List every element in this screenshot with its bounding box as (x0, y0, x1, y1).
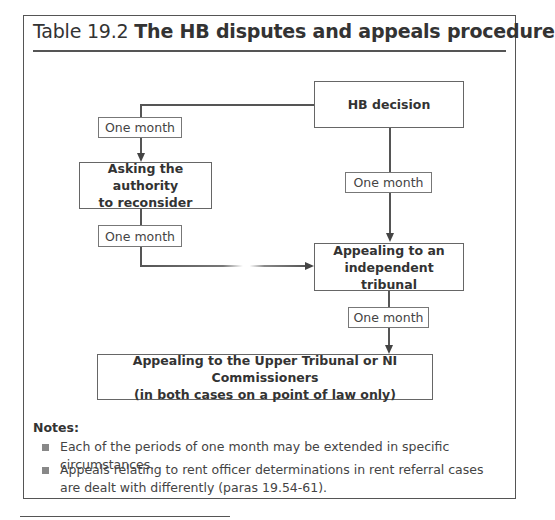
period-label: One month (105, 120, 175, 135)
connector-decision-left (140, 104, 314, 106)
bullet-icon (42, 444, 49, 451)
node-label-line2: independent tribunal (315, 259, 463, 293)
period-label: One month (354, 175, 424, 190)
footnote-divider (20, 516, 230, 517)
bullet-icon (42, 467, 49, 474)
node-ask-reconsider: Asking the authorityto reconsider (79, 162, 212, 209)
table-number: Table 19.2 (33, 20, 134, 42)
period-label: One month (105, 229, 175, 244)
node-hb-decision: HB decision (314, 81, 464, 128)
node-upper-tribunal: Appealing to the Upper Tribunal or NI Co… (97, 354, 433, 400)
node-label-line2: (in both cases on a point of law only) (98, 386, 432, 403)
notes-heading: Notes: (33, 420, 79, 435)
table-caption: The HB disputes and appeals procedure (134, 20, 554, 42)
note-item: Appeals relating to rent officer determi… (60, 461, 500, 497)
node-independent-tribunal: Appealing to anindependent tribunal (314, 243, 464, 291)
node-label: HB decision (348, 96, 431, 113)
period-decision-to-tribunal: One month (345, 172, 432, 193)
period-label: One month (354, 310, 424, 325)
connector-reconsider-right (140, 265, 306, 267)
period-tribunal-to-upper: One month (348, 307, 429, 328)
node-label-line2: to reconsider (80, 194, 211, 211)
title-divider (33, 50, 506, 52)
node-label-line1: Appealing to an (315, 242, 463, 259)
node-label-line1: Appealing to the Upper Tribunal or NI Co… (98, 352, 432, 386)
table-title: Table 19.2 The HB disputes and appeals p… (33, 20, 555, 42)
period-decision-to-reconsider: One month (98, 117, 182, 138)
arrow-reconsider-to-tribunal (305, 262, 314, 270)
node-label-line1: Asking the authority (80, 160, 211, 194)
period-reconsider-to-tribunal: One month (98, 225, 182, 247)
